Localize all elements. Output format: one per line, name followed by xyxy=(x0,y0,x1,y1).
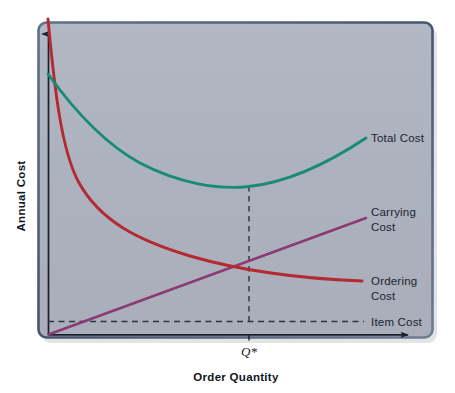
x-axis-title: Order Quantity xyxy=(193,371,279,383)
carrying-cost-label-line2: Cost xyxy=(371,221,396,233)
total-cost-label: Total Cost xyxy=(371,132,425,144)
optimum-quantity-label: Q* xyxy=(241,344,257,359)
eoq-chart-canvas: Total Cost Carrying Cost Ordering Cost I… xyxy=(0,0,455,393)
y-axis-title: Annual Cost xyxy=(15,160,27,231)
carrying-cost-label-line1: Carrying xyxy=(371,206,416,218)
ordering-cost-label-line1: Ordering xyxy=(371,275,417,287)
eoq-chart: Total Cost Carrying Cost Ordering Cost I… xyxy=(0,0,455,393)
item-cost-label: Item Cost xyxy=(371,316,423,328)
ordering-cost-label-line2: Cost xyxy=(371,290,396,302)
